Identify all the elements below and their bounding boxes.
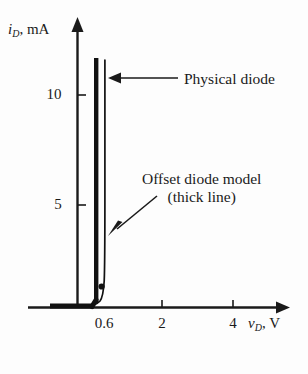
- y-tick-label-10: 10: [38, 87, 70, 102]
- x-axis-arrowhead: [276, 302, 290, 314]
- y-tick-label-5: 5: [46, 197, 70, 212]
- y-axis-arrowhead: [72, 17, 84, 32]
- series-physical-diode: [82, 60, 105, 307]
- annotation-physical-diode-line-1: Physical diode: [184, 70, 275, 88]
- x-tick-label-2: 2: [148, 316, 176, 331]
- annotation-arrow-physical-diode: [108, 73, 178, 84]
- physical-diode-knee-dot: [99, 283, 105, 289]
- physical-diode-curve: [82, 60, 105, 307]
- y-axis-title: iD, mA: [8, 22, 49, 39]
- annotation-offset-diode-model: Offset diode model (thick line): [142, 170, 261, 206]
- x-axis-title-symbol: v: [248, 315, 255, 331]
- x-axis-title-unit: , V: [262, 315, 280, 331]
- y-axis-title-unit: , mA: [19, 21, 49, 37]
- annotation-offset-diode-model-line-2: (thick line): [142, 188, 261, 206]
- y-axis-ticks: [78, 95, 87, 205]
- axis-lines: [28, 17, 290, 314]
- x-tick-label-4: 4: [220, 316, 246, 331]
- diode-iv-figure: iD, mA 10 5 0.6 2 4 vD, V Physical diode…: [0, 0, 308, 374]
- x-axis-title: vD, V: [248, 316, 280, 333]
- x-axis-title-subscript: D: [255, 322, 262, 333]
- annotation-offset-diode-model-line-1: Offset diode model: [142, 170, 261, 188]
- annotation-physical-diode: Physical diode: [184, 70, 275, 88]
- x-tick-label-0-6: 0.6: [78, 316, 130, 331]
